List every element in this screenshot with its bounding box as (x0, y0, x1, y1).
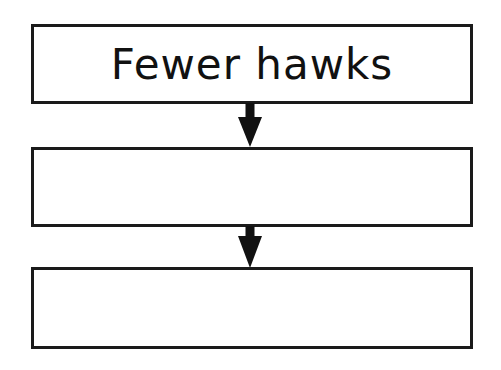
arrow-head (238, 236, 262, 268)
flow-box-3 (31, 267, 473, 349)
down-arrow-icon (236, 103, 264, 147)
flow-box-2 (31, 147, 473, 227)
flow-box-1: Fewer hawks (31, 24, 473, 104)
flow-box-1-text: Fewer hawks (111, 40, 393, 89)
down-arrow-icon (236, 226, 264, 268)
arrow-shaft (246, 103, 255, 119)
arrow-head (238, 117, 262, 147)
